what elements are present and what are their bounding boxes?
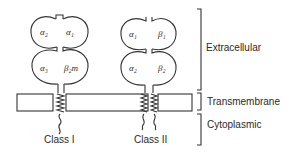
class-2-domain-label: α₂: [129, 63, 137, 73]
transmembrane-bracket: [197, 93, 201, 110]
class-1-domain-label: β₂m: [64, 63, 78, 73]
class-2-domain-label: β₁: [158, 29, 166, 39]
extracellular-label: Extracellular: [206, 42, 261, 53]
class-2-domain-label: β₂: [158, 63, 166, 73]
cytoplasmic-bracket: [197, 114, 201, 145]
class-1-domain-label: α₁: [66, 27, 74, 37]
transmembrane-label: Transmembrane: [207, 96, 280, 107]
membrane-segment-middle: [66, 94, 148, 111]
membrane-segment-left: [17, 94, 53, 111]
class-1-transmembrane-helix: [57, 84, 64, 134]
class-2-transmembrane-helices: [141, 85, 157, 130]
cytoplasmic-label: Cytoplasmic: [207, 119, 261, 130]
membrane-segment-right: [158, 94, 192, 111]
extracellular-bracket: [197, 9, 201, 90]
class-1-domain-label: α₃: [40, 63, 48, 73]
class-1-label: Class I: [44, 134, 75, 145]
class-1-domain-label: α₂: [40, 27, 48, 37]
class-2-label: Class II: [134, 134, 167, 145]
class-2-domain-label: α₁: [129, 29, 137, 39]
diagram-canvas: [0, 0, 293, 153]
